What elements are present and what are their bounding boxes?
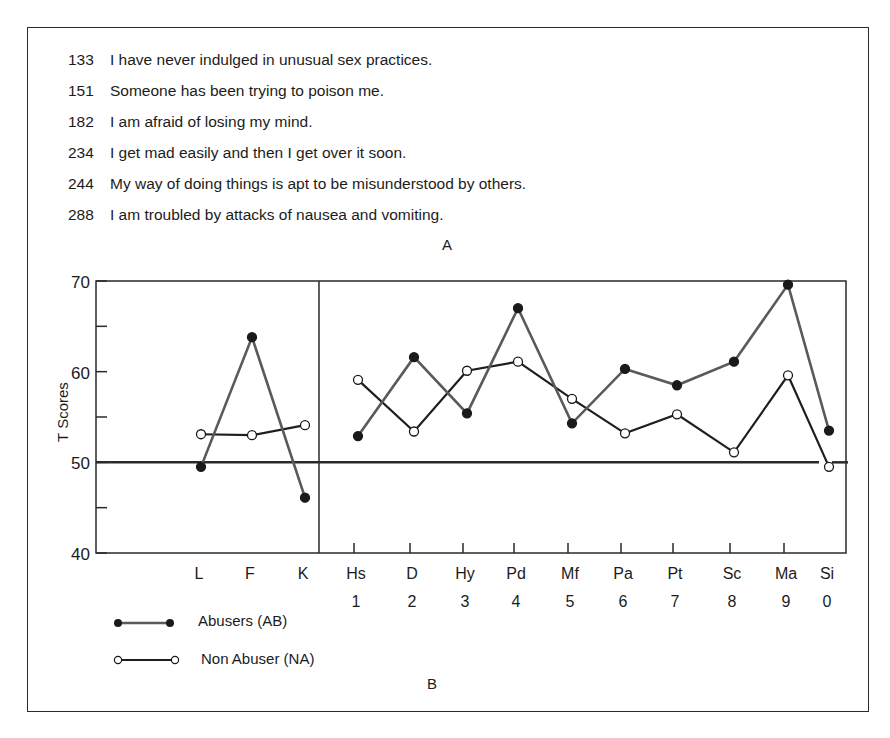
data-point-filled xyxy=(197,462,206,471)
legend-label-non-abusers: Non Abuser (NA) xyxy=(201,650,314,667)
x-tick-number: 0 xyxy=(823,593,832,610)
data-point-open xyxy=(730,448,739,457)
data-point-filled xyxy=(730,357,739,366)
y-tick-label: 60 xyxy=(71,364,90,383)
data-point-open xyxy=(825,462,834,471)
data-point-filled xyxy=(621,364,630,373)
x-tick-number: 5 xyxy=(566,593,575,610)
data-point-filled xyxy=(463,409,472,418)
y-tick-label: 40 xyxy=(71,545,90,564)
y-tick-label: 70 xyxy=(71,273,90,292)
data-point-open xyxy=(673,410,682,419)
x-tick-label: Mf xyxy=(561,565,579,582)
data-point-open xyxy=(784,371,793,380)
plot-frame xyxy=(96,281,846,553)
legend-marker-open-icon xyxy=(114,656,121,663)
data-point-open xyxy=(568,394,577,403)
x-tick-label: Pt xyxy=(667,565,683,582)
x-tick-number: 7 xyxy=(671,593,680,610)
data-point-filled xyxy=(248,333,257,342)
legend-marker-open-icon xyxy=(171,656,178,663)
x-tick-label: Ma xyxy=(775,565,797,582)
data-point-filled xyxy=(410,353,419,362)
data-point-filled xyxy=(784,280,793,289)
panel-label-b: B xyxy=(427,675,437,692)
x-tick-number: 2 xyxy=(408,593,417,610)
data-point-open xyxy=(514,357,523,366)
x-tick-number: 9 xyxy=(782,593,791,610)
data-point-filled xyxy=(825,426,834,435)
x-tick-label: Pa xyxy=(613,565,633,582)
data-point-open xyxy=(248,431,257,440)
data-point-filled xyxy=(673,381,682,390)
data-point-open xyxy=(301,421,310,430)
x-tick-number: 6 xyxy=(619,593,628,610)
y-tick-label: 50 xyxy=(71,454,90,473)
x-tick-label: F xyxy=(245,565,255,582)
data-point-filled xyxy=(354,432,363,441)
series-line-non-abusers xyxy=(358,362,829,467)
x-tick-label: L xyxy=(195,565,204,582)
x-tick-label: Sc xyxy=(723,565,742,582)
x-tick-number: 3 xyxy=(461,593,470,610)
data-point-open xyxy=(463,366,472,375)
x-tick-number: 4 xyxy=(512,593,521,610)
x-tick-number: 1 xyxy=(352,593,361,610)
data-point-open xyxy=(621,429,630,438)
x-tick-number: 8 xyxy=(728,593,737,610)
y-axis-label: T Scores xyxy=(54,382,71,442)
data-point-open xyxy=(410,427,419,436)
legend-marker-filled-icon xyxy=(166,619,174,627)
mmpi-profile-chart: 40506070T ScoresLFKHs1D2Hy3Pd4Mf5Pa6Pt7S… xyxy=(0,0,890,738)
data-point-filled xyxy=(301,493,310,502)
data-point-open xyxy=(197,430,206,439)
data-point-open xyxy=(354,375,363,384)
legend-label-abusers: Abusers (AB) xyxy=(198,612,287,629)
data-point-filled xyxy=(514,304,523,313)
data-point-filled xyxy=(568,419,577,428)
x-tick-label: Si xyxy=(820,565,834,582)
legend-marker-filled-icon xyxy=(114,619,122,627)
x-tick-label: K xyxy=(298,565,309,582)
x-tick-label: D xyxy=(406,565,418,582)
x-tick-label: Pd xyxy=(506,565,526,582)
x-tick-label: Hs xyxy=(346,565,366,582)
x-tick-label: Hy xyxy=(455,565,475,582)
series-line-abusers xyxy=(201,337,305,497)
